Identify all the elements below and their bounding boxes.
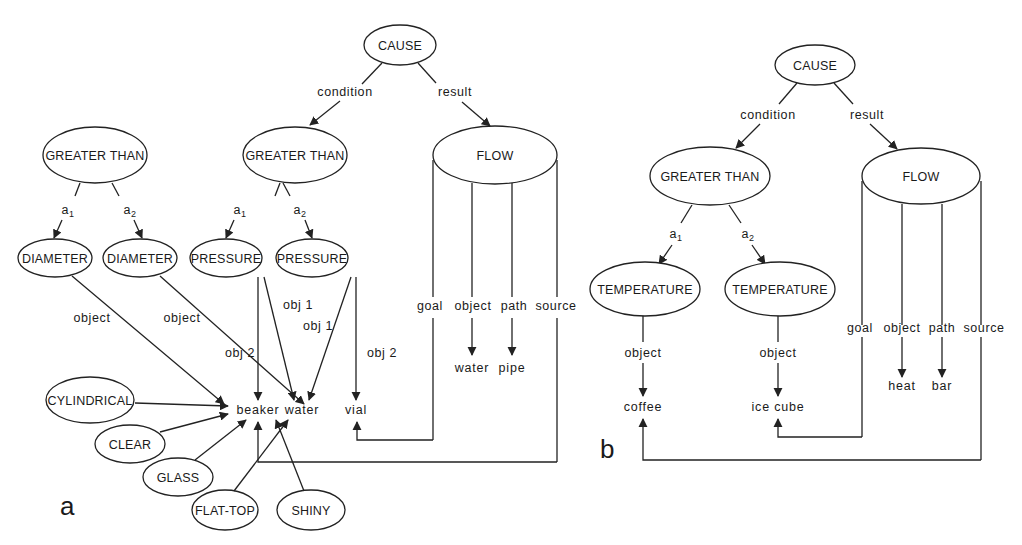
edge-label-object: object: [625, 346, 662, 360]
entity-heat: heat: [888, 379, 916, 393]
edge-label-object: object: [455, 299, 492, 313]
svg-text:GLASS: GLASS: [157, 471, 200, 485]
entity-coffee: coffee: [624, 400, 663, 414]
edge-label-condition: condition: [317, 85, 372, 99]
svg-text:FLAT-TOP: FLAT-TOP: [195, 504, 255, 518]
svg-text:DIAMETER: DIAMETER: [107, 252, 173, 266]
edge-label-condition: condition: [740, 108, 795, 122]
svg-text:TEMPERATURE: TEMPERATURE: [597, 283, 693, 297]
edge-label-a1: a1: [61, 203, 74, 219]
edge-label-a1: a1: [669, 227, 682, 243]
entity-water: water: [284, 403, 320, 417]
cause-label: CAUSE: [378, 39, 422, 53]
panel-a: CAUSE condition result GREATER THAN a1 a…: [18, 25, 577, 530]
panel-b: CAUSE condition result GREATER THAN a1 a…: [590, 45, 1005, 464]
edge-label-obj1: obj 1: [303, 319, 333, 333]
edge-label-a1: a1: [233, 203, 246, 219]
edge-label-goal: goal: [847, 321, 873, 335]
entity-beaker: beaker: [236, 403, 279, 417]
edge-label-obj2: obj 2: [225, 346, 255, 360]
svg-text:FLOW: FLOW: [477, 149, 514, 163]
svg-text:CYLINDRICAL: CYLINDRICAL: [48, 394, 133, 408]
svg-text:TEMPERATURE: TEMPERATURE: [732, 283, 828, 297]
edge-label-object: object: [74, 311, 111, 325]
edge-label-result: result: [850, 108, 884, 122]
svg-text:CLEAR: CLEAR: [109, 438, 152, 452]
svg-text:SHINY: SHINY: [291, 504, 331, 518]
edge-label-path: path: [501, 299, 528, 313]
edge-label-result: result: [438, 85, 472, 99]
entity-water: water: [454, 361, 490, 375]
analogy-diagram: CAUSE condition result GREATER THAN a1 a…: [0, 0, 1022, 545]
panel-label-a: a: [60, 491, 75, 521]
svg-text:FLOW: FLOW: [903, 170, 940, 184]
entity-pipe: pipe: [499, 361, 526, 375]
edge-label-source: source: [535, 299, 576, 313]
entity-vial: vial: [345, 403, 367, 417]
svg-text:GREATER THAN: GREATER THAN: [45, 149, 144, 163]
edge-label-object: object: [164, 311, 201, 325]
edge-label-a2: a2: [123, 203, 136, 219]
panel-label-b: b: [600, 434, 614, 464]
svg-text:PRESSURE: PRESSURE: [191, 252, 261, 266]
edge-label-obj1: obj 1: [283, 298, 313, 312]
edge-label-path: path: [929, 321, 956, 335]
edge-label-object: object: [760, 346, 797, 360]
svg-text:DIAMETER: DIAMETER: [22, 252, 88, 266]
edge-label-a2: a2: [741, 227, 754, 243]
svg-text:CAUSE: CAUSE: [793, 59, 837, 73]
svg-text:PRESSURE: PRESSURE: [277, 252, 347, 266]
svg-text:GREATER THAN: GREATER THAN: [660, 170, 759, 184]
entity-ice-cube: ice cube: [752, 400, 805, 414]
edge-label-source: source: [963, 321, 1004, 335]
svg-text:GREATER THAN: GREATER THAN: [245, 149, 344, 163]
edge-label-a2: a2: [293, 203, 306, 219]
entity-bar: bar: [932, 379, 952, 393]
edge-label-goal: goal: [417, 299, 443, 313]
edge-label-object: object: [884, 321, 921, 335]
edge-label-obj2: obj 2: [367, 346, 397, 360]
